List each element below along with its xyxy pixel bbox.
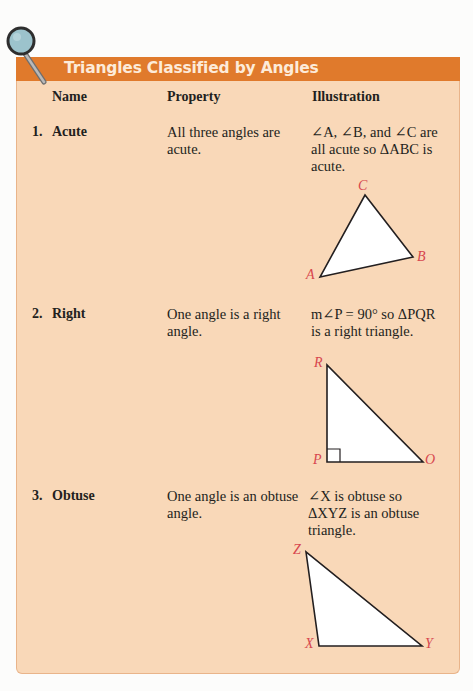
column-header-name: Name [52,89,87,105]
column-header-illustration: Illustration [312,89,380,105]
row-property: One angle is a right angle. [167,306,299,340]
vertex-label-y: Y [425,636,433,652]
row-illustration-text: ∠X is obtuse so ΔXYZ is an obtuse triang… [308,488,443,539]
column-header-property: Property [167,89,220,105]
row-number: 1. [32,124,43,140]
vertex-label-q: O [425,452,435,468]
vertex-label-a: A [306,267,315,283]
row-name: Right [52,306,85,322]
magnifier-icon [4,24,50,86]
panel-title: Triangles Classified by Angles [64,59,319,77]
row-number: 2. [32,306,43,322]
vertex-label-c: C [358,178,367,194]
vertex-label-p: P [313,452,322,468]
row-illustration-text: ∠A, ∠B, and ∠C are all acute so ΔABC is … [311,124,446,175]
row-number: 3. [32,488,43,504]
row-property: All three angles are acute. [167,124,299,158]
row-property: One angle is an obtuse angle. [167,488,299,522]
vertex-label-r: R [314,355,323,371]
vertex-label-b: B [417,249,426,265]
row-name: Obtuse [52,488,95,504]
vertex-label-z: Z [293,542,301,558]
row-name: Acute [52,124,87,140]
row-illustration-text: m∠P = 90° so ΔPQR is a right triangle. [311,306,446,340]
vertex-label-x: X [305,636,314,652]
